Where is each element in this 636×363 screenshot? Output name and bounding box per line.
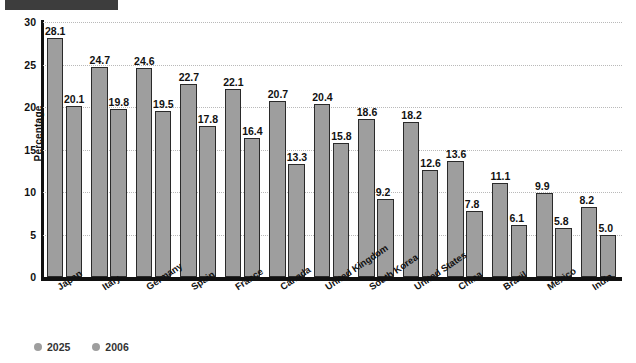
- bar-2006-china: [466, 211, 483, 277]
- bar-chart-figure: Percentage 051015202530 28.120.124.719.8…: [0, 0, 636, 363]
- legend-label: 2025: [47, 341, 70, 353]
- bar-value-label: 7.8: [465, 198, 480, 210]
- bar-value-label: 22.7: [179, 71, 199, 83]
- bar-2025-italy: [91, 67, 108, 277]
- bar-2006-united-kingdom: [333, 143, 350, 277]
- chart-legend: 20252006: [34, 341, 129, 353]
- bar-value-label: 15.8: [331, 130, 351, 142]
- bar-value-label: 18.2: [401, 109, 421, 121]
- bar-value-label: 24.7: [90, 54, 110, 66]
- bar-2006-japan: [66, 106, 83, 277]
- bar-value-label: 5.8: [554, 215, 569, 227]
- bar-2025-mexico: [536, 193, 553, 277]
- bar-2025-france: [225, 89, 242, 277]
- bar-value-label: 20.1: [64, 93, 84, 105]
- y-tick-label: 30: [24, 16, 36, 28]
- bar-value-label: 17.8: [198, 113, 218, 125]
- gridline-20: [43, 107, 622, 108]
- gridline-30: [43, 22, 622, 23]
- bar-value-label: 18.6: [357, 106, 377, 118]
- bar-value-label: 16.4: [242, 125, 262, 137]
- bar-2025-united-kingdom: [314, 104, 331, 277]
- legend-marker-icon: [34, 343, 42, 351]
- bar-2025-spain: [180, 84, 197, 277]
- bar-value-label: 13.6: [446, 148, 466, 160]
- bar-value-label: 19.5: [153, 98, 173, 110]
- bar-value-label: 19.8: [109, 96, 129, 108]
- bar-value-label: 13.3: [287, 151, 307, 163]
- y-tick-label: 25: [24, 59, 36, 71]
- legend-item-2025[interactable]: 2025: [34, 341, 70, 353]
- bar-2006-spain: [199, 126, 216, 277]
- bar-value-label: 22.1: [223, 76, 243, 88]
- bar-2006-canada: [288, 164, 305, 277]
- bar-2025-canada: [269, 101, 286, 277]
- bar-value-label: 9.2: [376, 186, 391, 198]
- bar-2006-france: [244, 138, 261, 277]
- legend-marker-icon: [92, 343, 100, 351]
- y-tick-label: 5: [30, 229, 36, 241]
- bar-2006-italy: [110, 109, 127, 277]
- bar-2006-united-states: [422, 170, 439, 277]
- gridline-25: [43, 65, 622, 66]
- legend-label: 2006: [105, 341, 128, 353]
- bar-2025-india: [581, 207, 598, 277]
- bar-value-label: 20.7: [268, 88, 288, 100]
- bar-value-label: 28.1: [45, 25, 65, 37]
- bar-2006-germany: [155, 111, 172, 277]
- bar-value-label: 8.2: [579, 194, 594, 206]
- y-tick-label: 15: [24, 144, 36, 156]
- bar-value-label: 11.1: [490, 170, 510, 182]
- bar-2025-germany: [136, 68, 153, 277]
- bar-value-label: 5.0: [598, 222, 613, 234]
- bar-2025-brazil: [492, 183, 509, 277]
- legend-item-2006[interactable]: 2006: [92, 341, 128, 353]
- bar-value-label: 24.6: [134, 55, 154, 67]
- plot-area: 28.120.124.719.824.619.522.717.822.116.4…: [43, 22, 622, 277]
- y-tick-label: 10: [24, 186, 36, 198]
- bar-value-label: 9.9: [535, 180, 550, 192]
- bar-2025-japan: [47, 38, 64, 277]
- y-tick-label: 0: [30, 271, 36, 283]
- bar-value-label: 6.1: [509, 212, 524, 224]
- bar-value-label: 20.4: [312, 91, 332, 103]
- y-tick-label: 20: [24, 101, 36, 113]
- bar-value-label: 12.6: [420, 157, 440, 169]
